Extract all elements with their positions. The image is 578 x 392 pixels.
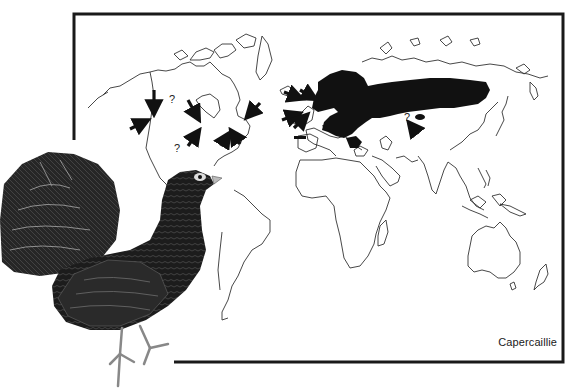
eye <box>198 175 202 179</box>
figure-caption: Capercaillie <box>498 336 557 348</box>
legs <box>110 326 168 386</box>
capercaillie-figure: ? ? ? <box>0 0 578 392</box>
question-mark: ? <box>169 93 175 105</box>
native-range <box>294 70 490 148</box>
beak <box>212 176 222 184</box>
question-mark: ? <box>404 111 410 123</box>
capercaillie-illustration <box>0 150 240 392</box>
